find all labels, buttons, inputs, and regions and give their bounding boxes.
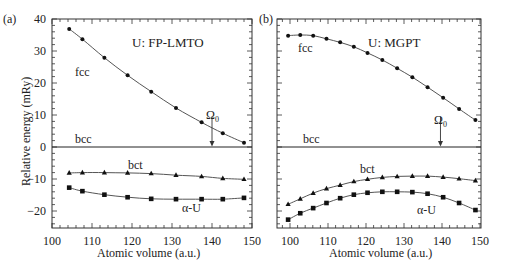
fcc-marker (126, 73, 130, 77)
panel-b-omega-label: Ω0 (434, 113, 447, 129)
alpha-u-marker (324, 201, 329, 206)
y-axis-title: Relative energy (mRy) (19, 77, 33, 186)
panel-a-fcc-label: fcc (75, 65, 90, 79)
alpha-u-marker (67, 185, 72, 190)
alpha-u-marker (298, 211, 303, 216)
alpha-u-marker (125, 195, 130, 200)
y-tick-label: 30 (34, 44, 46, 58)
panel-a-plot (52, 27, 252, 202)
alpha-u-marker (80, 189, 85, 194)
panel-a-omega-label: Ω0 (206, 108, 219, 124)
panel-b-alpha-label: α-U (417, 203, 436, 217)
panel-a-bct-label: bct (128, 158, 143, 172)
panel-a-title: U: FP-LMTO (132, 35, 204, 50)
omega-symbol: Ω (434, 113, 443, 127)
fcc-marker (200, 120, 204, 124)
fcc-marker (473, 118, 477, 122)
square-series-line (69, 188, 244, 200)
panel-b-bct-label: bct (360, 162, 375, 176)
fcc-marker (366, 51, 370, 55)
fcc-marker (338, 40, 342, 44)
figure: 100110120130140150403020100−10−20 (a) U:… (0, 0, 507, 270)
panel-a: 100110120130140150403020100−10−20 (a) U:… (3, 12, 261, 248)
fcc-marker (457, 107, 461, 111)
alpha-u-marker (242, 196, 247, 201)
alpha-u-marker (311, 206, 316, 211)
panel-b-bcc-label: bcc (303, 132, 320, 146)
fcc-marker (174, 106, 178, 110)
fcc-marker (298, 33, 302, 37)
fcc-marker (242, 141, 246, 145)
alpha-u-marker (286, 217, 291, 222)
alpha-u-marker (441, 195, 446, 200)
fcc-marker (380, 58, 384, 62)
x-tick-label: 140 (433, 234, 451, 248)
x-tick-label: 140 (203, 234, 221, 248)
fcc-marker (67, 27, 71, 31)
fcc-marker (80, 37, 84, 41)
chart-svg: 100110120130140150403020100−10−20 (a) U:… (0, 0, 507, 270)
alpha-u-marker (457, 201, 462, 206)
y-tick-label: −20 (27, 204, 46, 218)
y-tick-label: 0 (40, 140, 46, 154)
panel-a-x-axis-title: Atomic volume (a.u.) (97, 246, 200, 260)
square-series-line (288, 192, 475, 220)
omega-arrow-head (438, 141, 443, 147)
y-tick-label: 20 (34, 76, 46, 90)
panel-b-label: (b) (259, 12, 273, 26)
panel-b: 100110120130140150 (b) U: MGPT fcc bcc b… (259, 12, 489, 248)
fcc-marker (102, 56, 106, 60)
panel-a-alpha-label: α-U (182, 201, 201, 215)
fcc-marker (324, 37, 328, 41)
panel-a-bcc-label: bcc (75, 132, 92, 146)
fcc-marker (352, 45, 356, 49)
panel-b-title: U: MGPT (368, 35, 420, 50)
x-tick-label: 150 (471, 234, 489, 248)
alpha-u-marker (380, 190, 385, 195)
fcc-marker (286, 34, 290, 38)
x-tick-label: 100 (281, 234, 299, 248)
alpha-u-marker (352, 192, 357, 197)
panel-b-x-axis-title: Atomic volume (a.u.) (329, 246, 432, 260)
omega-arrow-head (210, 141, 215, 147)
alpha-u-marker (174, 197, 179, 202)
alpha-u-marker (410, 190, 415, 195)
alpha-u-marker (221, 197, 226, 202)
omega-subscript: 0 (215, 115, 219, 124)
fcc-marker (149, 90, 153, 94)
alpha-u-marker (365, 190, 370, 195)
omega-subscript: 0 (443, 120, 447, 129)
alpha-u-marker (149, 197, 154, 202)
triangle-series-line (69, 173, 244, 180)
panel-b-fcc-label: fcc (298, 41, 313, 55)
omega-symbol: Ω (206, 108, 215, 122)
fcc-marker (395, 66, 399, 70)
y-tick-label: 10 (34, 108, 46, 122)
fcc-marker (441, 96, 445, 100)
fcc-marker (426, 85, 430, 89)
alpha-u-marker (102, 192, 107, 197)
y-tick-label: 40 (34, 12, 46, 26)
x-tick-label: 150 (243, 234, 261, 248)
fcc-marker (221, 131, 225, 135)
alpha-u-marker (395, 190, 400, 195)
x-tick-label: 100 (43, 234, 61, 248)
alpha-u-marker (338, 196, 343, 201)
alpha-u-marker (473, 208, 478, 213)
fcc-marker (311, 34, 315, 38)
panel-a-label: (a) (3, 12, 16, 26)
alpha-u-marker (425, 191, 430, 196)
fcc-marker (410, 75, 414, 79)
panel-b-plot (277, 33, 481, 222)
